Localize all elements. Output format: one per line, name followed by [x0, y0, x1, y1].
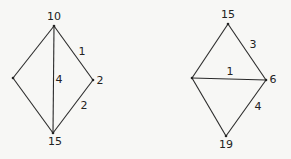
graph-vertex	[53, 25, 56, 28]
graph-vertex	[265, 79, 268, 82]
graph-vertex	[12, 77, 15, 80]
graph-vertex	[227, 23, 230, 26]
edge-weight-label: 1	[79, 45, 86, 58]
vertex-label: 10	[47, 10, 61, 23]
graph-edge	[192, 78, 226, 136]
graph-edge	[192, 78, 266, 80]
vertex-label: 2	[97, 74, 104, 87]
graph-vertex	[191, 77, 194, 80]
graph-vertex	[92, 79, 95, 82]
graph-diagrams: 14210215 31415619	[0, 0, 291, 159]
graph-vertex	[52, 132, 55, 135]
graph-edge	[13, 26, 54, 78]
vertex-label: 19	[219, 138, 233, 151]
vertex-label: 15	[48, 135, 62, 148]
edge-weight-label: 4	[56, 73, 63, 86]
graph-edge	[54, 26, 93, 80]
graph-vertex	[225, 135, 228, 138]
edge-weight-label: 1	[227, 65, 234, 78]
graph-edge	[13, 78, 53, 133]
vertex-label: 15	[221, 8, 235, 21]
left-weighted-graph: 14210215	[12, 10, 104, 148]
edge-weight-label: 2	[81, 99, 88, 112]
graph-edge	[228, 24, 266, 80]
right-weighted-graph: 31415619	[191, 8, 277, 151]
edge-weight-label: 3	[250, 38, 257, 51]
vertex-label: 6	[270, 73, 277, 86]
edge-weight-label: 4	[255, 100, 262, 113]
graph-edge	[192, 24, 228, 78]
graph-edge	[53, 26, 54, 133]
